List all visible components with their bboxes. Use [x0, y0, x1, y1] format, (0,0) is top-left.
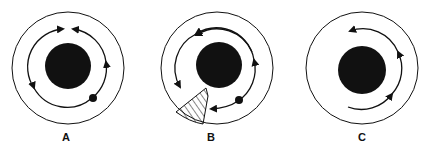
panel-a: A: [12, 12, 124, 143]
flow-arrow-left: [34, 88, 92, 107]
panel-label-b: B: [207, 131, 215, 143]
diagram-figure: A B C: [0, 0, 432, 150]
flow-arrow-bottom: [211, 101, 238, 109]
flow-arc-right: [392, 52, 402, 94]
flow-arrow-right: [92, 62, 106, 98]
central-body: [196, 42, 242, 88]
small-body: [235, 96, 243, 104]
flow-arc-lower: [348, 94, 392, 109]
central-body: [45, 43, 91, 89]
panel-label-a: A: [62, 131, 70, 143]
panel-label-c: C: [358, 131, 366, 143]
small-body: [89, 94, 97, 102]
panel-b: B: [161, 12, 273, 143]
panel-c: C: [306, 12, 418, 143]
flow-arrow-left: [175, 34, 196, 87]
central-body: [338, 46, 386, 94]
hatched-sector: [176, 88, 208, 124]
